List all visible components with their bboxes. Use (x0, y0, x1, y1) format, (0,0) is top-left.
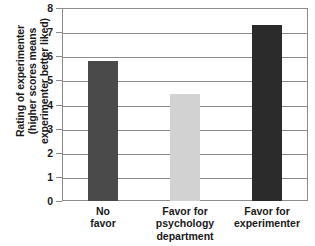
x-axis-label: Nofavor (62, 205, 144, 230)
x-axis-label: Favor forexperimenter (226, 205, 308, 230)
y-axis-tick-label: 2 (13, 148, 53, 159)
x-axis-label-line: No (62, 205, 144, 217)
y-axis-tick-label: 6 (13, 51, 53, 62)
x-axis-label: Favor forpsychologydepartment (144, 205, 226, 242)
x-axis-labels: NofavorFavor forpsychologydepartmentFavo… (62, 205, 308, 246)
x-axis-label-line: favor (62, 217, 144, 229)
x-axis-label-line: Favor for (226, 205, 308, 217)
bars-group (62, 8, 308, 201)
bar (170, 94, 200, 201)
y-axis-tick-label: 3 (13, 123, 53, 134)
bar (252, 25, 282, 201)
x-axis-label-line: Favor for (144, 205, 226, 217)
y-axis-tick-label: 8 (13, 3, 53, 14)
bar (88, 61, 118, 201)
y-axis-tick-label: 7 (13, 27, 53, 38)
x-axis-label-line: experimenter (226, 217, 308, 229)
bar-chart: Rating of experimenter (higher scores me… (0, 0, 315, 246)
y-axis-tick-label: 1 (13, 172, 53, 183)
x-axis-label-line: department (144, 230, 226, 242)
y-axis-tick-label: 5 (13, 75, 53, 86)
y-axis-tick-label: 4 (13, 99, 53, 110)
x-axis-label-line: psychology (144, 217, 226, 229)
y-axis-tick-label: 0 (13, 196, 53, 207)
y-axis-tick (56, 201, 62, 202)
